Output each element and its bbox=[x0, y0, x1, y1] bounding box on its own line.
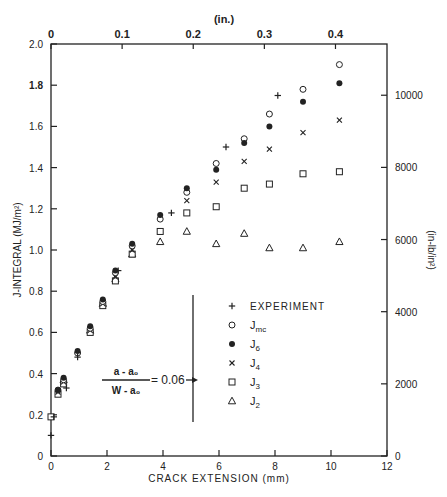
y-tick-label: 2.0 bbox=[29, 39, 43, 50]
top-axis-ticks: 00.10.20.30.4 bbox=[48, 28, 344, 49]
j-integral-chart: 024681012 00.20.40.60.81.01.21.41.61.82.… bbox=[0, 0, 447, 497]
annotation-value: = 0.06 bbox=[151, 373, 185, 387]
data-point-open-square bbox=[241, 185, 247, 191]
legend-item: J6 bbox=[229, 338, 261, 353]
data-point-open-circle bbox=[300, 86, 306, 92]
data-point-filled-circle bbox=[300, 99, 306, 105]
right-axis-title: (in-lb/in²) bbox=[426, 230, 437, 269]
x-tick-label: 0 bbox=[48, 461, 54, 472]
legend: EXPERIMENTJmcJ6J4J3J2 bbox=[228, 301, 325, 410]
y-tick-label: 0.4 bbox=[29, 369, 43, 380]
plot-border bbox=[51, 44, 387, 456]
legend-label: J6 bbox=[250, 338, 261, 353]
open-circle-legend-icon bbox=[229, 322, 235, 328]
x-legend-icon bbox=[230, 361, 235, 366]
data-point-filled-circle bbox=[55, 387, 61, 393]
legend-item: J4 bbox=[230, 357, 261, 372]
top-tick-label: 0 bbox=[48, 28, 54, 40]
y-axis-title: J-INTEGRAL (MJ/m²) bbox=[12, 202, 23, 297]
legend-label: J4 bbox=[250, 357, 261, 372]
data-point-open-triangle bbox=[213, 240, 220, 247]
x-tick-label: 6 bbox=[216, 461, 222, 472]
plus-legend-icon bbox=[229, 303, 235, 309]
ratio-annotation: a - a₀ W - a₀ = 0.06 bbox=[102, 295, 198, 422]
data-point-open-square bbox=[157, 228, 163, 234]
data-point-open-circle bbox=[213, 160, 219, 166]
data-point-filled-circle bbox=[61, 375, 67, 381]
legend-label: J3 bbox=[250, 376, 261, 391]
x-axis-ticks: 024681012 bbox=[48, 450, 393, 472]
y-tick-label: 1.2 bbox=[29, 204, 43, 215]
annotation-numerator: a - a₀ bbox=[114, 366, 139, 377]
legend-item: Jmc bbox=[229, 319, 266, 334]
data-point-open-triangle bbox=[183, 228, 190, 235]
y-tick-label: 1.6 bbox=[29, 121, 43, 132]
right-tick-label: 4000 bbox=[395, 307, 418, 318]
y-tick-label: 0.6 bbox=[29, 327, 43, 338]
right-tick-label: 0 bbox=[395, 451, 401, 462]
data-point-open-triangle bbox=[336, 238, 343, 245]
open-triangle-legend-icon bbox=[228, 397, 235, 404]
data-point-open-triangle bbox=[241, 230, 248, 237]
annotation-denominator: W - a₀ bbox=[112, 385, 140, 396]
data-point-filled-circle bbox=[100, 296, 106, 302]
data-point-open-square bbox=[266, 181, 272, 187]
legend-item: J3 bbox=[229, 376, 261, 391]
x-axis-title: CRACK EXTENSION (mm) bbox=[148, 473, 290, 484]
legend-label: J2 bbox=[250, 395, 261, 410]
y-tick-label: 0.2 bbox=[29, 410, 43, 421]
top-tick-label: 0.1 bbox=[114, 28, 129, 40]
data-point-filled-circle bbox=[241, 140, 247, 146]
right-tick-label: 8000 bbox=[395, 162, 418, 173]
data-point-filled-circle bbox=[157, 212, 163, 218]
data-point-plus bbox=[275, 92, 281, 98]
data-point-open-square bbox=[213, 204, 219, 210]
plot-frame bbox=[51, 44, 387, 456]
x-tick-label: 2 bbox=[104, 461, 110, 472]
x-tick-label: 8 bbox=[272, 461, 278, 472]
data-point-filled-circle bbox=[129, 241, 135, 247]
data-point-filled-circle bbox=[75, 348, 81, 354]
data-point-filled-circle bbox=[213, 167, 219, 173]
data-point-x bbox=[267, 147, 272, 152]
y-tick-label: 0 bbox=[37, 451, 43, 462]
open-square-legend-icon bbox=[229, 379, 235, 385]
x-tick-label: 4 bbox=[160, 461, 166, 472]
top-tick-label: 0.4 bbox=[328, 28, 344, 40]
legend-label: Jmc bbox=[250, 319, 266, 334]
right-tick-label: 6000 bbox=[395, 235, 418, 246]
legend-label: EXPERIMENT bbox=[250, 301, 325, 312]
data-point-filled-circle bbox=[266, 123, 272, 129]
data-point-plus bbox=[223, 144, 229, 150]
y-tick-label: 1.4 bbox=[29, 163, 43, 174]
y-tick-label: 1.0 bbox=[29, 245, 43, 256]
legend-item: J2 bbox=[228, 395, 260, 410]
data-point-open-triangle bbox=[157, 238, 164, 245]
y-axis-ticks: 00.20.40.60.81.01.21.41.61.82.0 bbox=[29, 39, 57, 462]
top-tick-label: 0.2 bbox=[186, 28, 201, 40]
data-point-open-square bbox=[184, 210, 190, 216]
data-point-x bbox=[337, 118, 342, 123]
data-point-x bbox=[301, 130, 306, 135]
top-tick-label: 0.3 bbox=[257, 28, 272, 40]
data-point-x bbox=[242, 159, 247, 164]
data-point-open-circle bbox=[336, 62, 342, 68]
data-point-open-square bbox=[300, 171, 306, 177]
x-tick-label: 10 bbox=[325, 461, 337, 472]
data-point-open-triangle bbox=[299, 244, 306, 251]
y-tick-label: 1.8 bbox=[29, 80, 43, 91]
right-tick-label: 2000 bbox=[395, 379, 418, 390]
data-point-open-triangle bbox=[266, 244, 273, 251]
data-point-x bbox=[184, 198, 189, 203]
data-point-plus bbox=[168, 210, 174, 216]
filled-circle-legend-icon bbox=[229, 341, 235, 347]
top-axis-title: (in.) bbox=[214, 13, 234, 25]
data-points bbox=[48, 62, 343, 439]
y-tick-label: 0.8 bbox=[29, 286, 43, 297]
legend-item: EXPERIMENT bbox=[229, 301, 325, 312]
data-point-open-circle bbox=[266, 111, 272, 117]
data-point-open-square bbox=[336, 169, 342, 175]
data-point-plus bbox=[48, 432, 54, 438]
x-tick-label: 12 bbox=[381, 461, 393, 472]
right-tick-label: 10000 bbox=[395, 90, 423, 101]
